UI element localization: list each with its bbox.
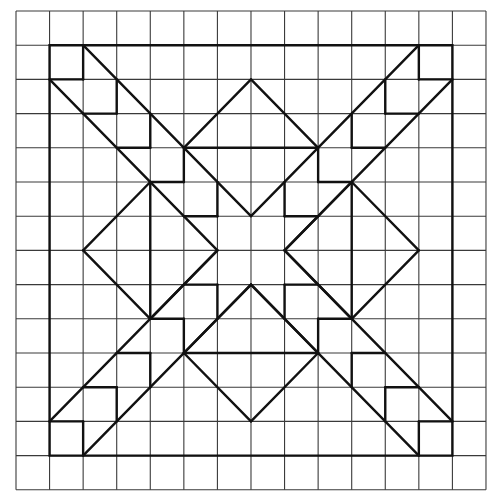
- quilt-pattern-diagram: [0, 0, 497, 504]
- pattern-segment: [251, 45, 419, 216]
- pattern-segment: [50, 79, 218, 250]
- grid-lines: [16, 11, 486, 490]
- pattern-segment: [83, 45, 251, 216]
